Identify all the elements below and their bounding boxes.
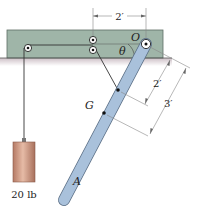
pulley-bottom bbox=[89, 46, 96, 53]
mechanics-diagram: 2′ θ G A O bbox=[0, 0, 209, 212]
center-of-mass-point bbox=[102, 111, 106, 115]
dimension-2ft-label: 2′ bbox=[153, 78, 162, 89]
pulley-top bbox=[89, 36, 96, 43]
label-G: G bbox=[85, 99, 94, 112]
dimension-arrows bbox=[145, 60, 186, 134]
weight-label: 20 lb bbox=[11, 189, 37, 200]
label-O: O bbox=[131, 31, 140, 44]
cable-attachment-point bbox=[116, 88, 120, 92]
pivot-O bbox=[141, 39, 150, 48]
pin-left bbox=[24, 44, 31, 51]
angle-label: θ bbox=[119, 45, 126, 58]
ground-shadow bbox=[0, 58, 172, 66]
weight-block bbox=[13, 138, 35, 182]
label-A: A bbox=[72, 175, 81, 188]
dimension-top-label: 2′ bbox=[115, 11, 124, 22]
dimension-3ft-label: 3′ bbox=[164, 98, 173, 109]
